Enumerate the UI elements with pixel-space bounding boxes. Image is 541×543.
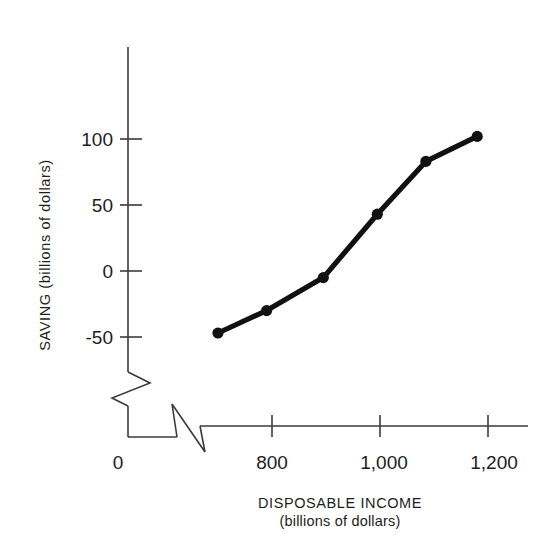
saving-series-line (218, 136, 477, 333)
x-axis-subtitle: (billions of dollars) (279, 513, 400, 529)
y-tick-label-100: 100 (81, 129, 113, 150)
x-axis-break-zigzag (172, 404, 205, 452)
data-point (372, 209, 383, 220)
x-tick-label-1000: 1,000 (360, 452, 408, 473)
data-point (318, 272, 329, 283)
y-axis-break-zigzag (112, 372, 150, 406)
saving-vs-disposable-income-chart: 100 50 0 -50 800 1,000 1,200 0 SAVING (b… (0, 0, 541, 543)
data-point (472, 131, 483, 142)
y-tick-label-50: 50 (92, 195, 113, 216)
y-axis-title: SAVING (billions of dollars) (37, 159, 53, 350)
x-axis-title: DISPOSABLE INCOME (258, 495, 422, 511)
data-point (420, 156, 431, 167)
y-tick-label-neg50: -50 (86, 327, 113, 348)
x-tick-label-1200: 1,200 (470, 452, 518, 473)
x-tick-label-800: 800 (256, 452, 288, 473)
origin-label: 0 (113, 452, 124, 473)
data-point (212, 327, 223, 338)
y-tick-label-0: 0 (102, 261, 113, 282)
data-point (261, 305, 272, 316)
chart-container: 100 50 0 -50 800 1,000 1,200 0 SAVING (b… (0, 0, 541, 543)
